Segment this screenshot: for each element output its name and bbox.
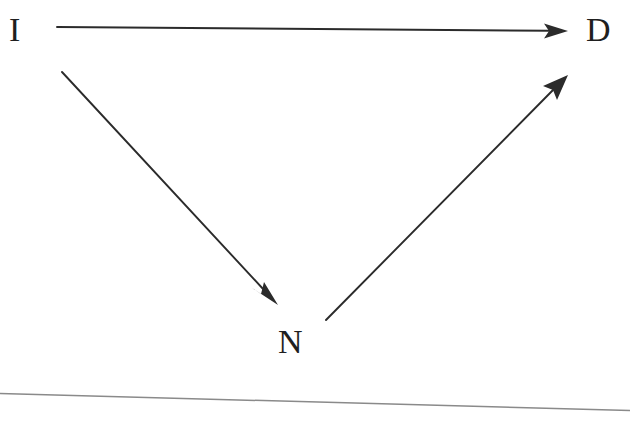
node-label-i: I	[9, 13, 20, 47]
node-label-n: N	[278, 325, 303, 359]
arrow-i-to-d-shaft	[57, 27, 550, 31]
diagram-canvas	[0, 0, 630, 429]
arrow-n-to-d	[326, 75, 568, 320]
diagram-page: I D N	[0, 0, 630, 429]
arrow-i-to-n-shaft	[62, 72, 264, 290]
arrow-i-to-n	[62, 72, 278, 305]
node-label-d: D	[586, 13, 611, 47]
arrow-i-to-n-head	[252, 282, 278, 305]
arrow-n-to-d-shaft	[326, 90, 553, 320]
bottom-horizontal-rule	[0, 394, 630, 411]
arrow-i-to-d	[57, 24, 568, 39]
